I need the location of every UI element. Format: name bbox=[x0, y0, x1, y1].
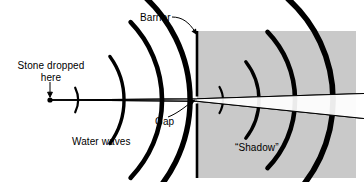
label-shadow: “Shadow” bbox=[235, 142, 279, 154]
label-barrier: Barrier bbox=[140, 12, 171, 24]
label-water-waves: Water waves bbox=[72, 136, 131, 148]
stone-leader-head bbox=[48, 92, 53, 97]
label-stone-dropped-line2: here bbox=[8, 72, 94, 84]
diagram-canvas bbox=[0, 0, 364, 182]
label-stone-dropped-line1: Stone dropped bbox=[8, 60, 94, 72]
wave-diffraction-diagram: Stone dropped here Barrier Gap Water wav… bbox=[0, 0, 364, 182]
label-stone-dropped-here: Stone dropped here bbox=[8, 60, 94, 84]
stone-leader-arrow bbox=[48, 82, 53, 97]
barrier-leader-head bbox=[192, 29, 198, 36]
incident-wavefront-group bbox=[75, 0, 190, 182]
incident-wavefront-3 bbox=[131, 22, 162, 178]
label-gap: Gap bbox=[155, 116, 174, 128]
barrier-leader-line bbox=[172, 17, 196, 33]
